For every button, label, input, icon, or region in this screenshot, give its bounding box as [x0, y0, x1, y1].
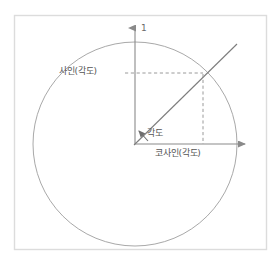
cosine-label: 코사인(각도) — [155, 148, 201, 159]
diagram-canvas — [0, 0, 280, 263]
sine-label: 사인(각도) — [59, 66, 97, 77]
unit-circle-diagram: 사인(각도) 각도 코사인(각도) 1 — [0, 0, 280, 263]
unit-value-label: 1 — [141, 23, 147, 34]
angle-label: 각도 — [147, 128, 163, 139]
